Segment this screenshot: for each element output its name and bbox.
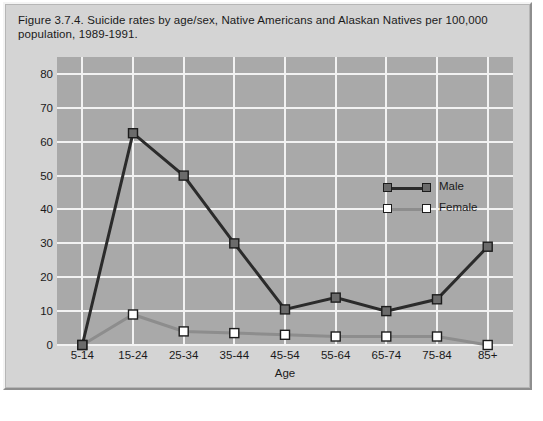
- y-axis-tick-label: 50: [7, 170, 53, 182]
- data-point-female: [281, 330, 290, 339]
- x-axis-tick-label: 35-44: [220, 349, 249, 361]
- y-axis-tick-label: 20: [7, 271, 53, 283]
- data-point-female: [179, 327, 188, 336]
- data-point-male: [230, 239, 239, 248]
- x-axis-tick-labels: 5-1415-2425-3435-4445-5455-6465-7475-848…: [57, 349, 513, 367]
- y-axis-tick-label: 60: [7, 136, 53, 148]
- x-axis-title: Age: [57, 367, 513, 379]
- data-point-male: [483, 242, 492, 251]
- y-axis-tick-label: 10: [7, 305, 53, 317]
- data-point-female: [230, 329, 239, 338]
- legend-label-male: Male: [439, 180, 464, 192]
- y-axis-tick-label: 30: [7, 237, 53, 249]
- data-point-male: [331, 293, 340, 302]
- data-point-female: [331, 332, 340, 341]
- data-point-male: [281, 305, 290, 314]
- legend-marker-female-left: [383, 204, 392, 213]
- figure-panel: Figure 3.7.4. Suicide rates by age/sex, …: [3, 2, 532, 390]
- x-axis-tick-label: 85+: [478, 349, 498, 361]
- legend-item-male: Male: [381, 179, 501, 197]
- y-axis-tick-labels: 01020304050607080: [5, 57, 53, 345]
- y-axis-tick-label: 80: [7, 68, 53, 80]
- data-point-female: [433, 332, 442, 341]
- x-axis-tick-label: 5-14: [71, 349, 94, 361]
- chart-legend: Male Female: [381, 179, 501, 223]
- x-axis-tick-label: 25-34: [169, 349, 198, 361]
- x-axis-tick-label: 15-24: [118, 349, 147, 361]
- data-point-male: [382, 307, 391, 316]
- chart-title: Figure 3.7.4. Suicide rates by age/sex, …: [18, 13, 513, 41]
- y-axis-tick-label: 40: [7, 203, 53, 215]
- data-point-male: [433, 295, 442, 304]
- data-point-female: [382, 332, 391, 341]
- legend-swatch-male: [381, 179, 433, 197]
- legend-marker-male-left: [383, 183, 392, 192]
- y-axis-tick-label: 70: [7, 102, 53, 114]
- legend-marker-male-right: [422, 183, 431, 192]
- y-axis-tick-label: 0: [7, 339, 53, 351]
- data-point-female: [129, 310, 138, 319]
- plot-area: Male Female: [57, 57, 513, 345]
- x-axis-tick-label: 65-74: [372, 349, 401, 361]
- x-axis-tick-label: 75-84: [422, 349, 451, 361]
- x-axis-tick-label: 55-64: [321, 349, 350, 361]
- data-point-male: [179, 171, 188, 180]
- data-point-male: [129, 129, 138, 138]
- legend-label-female: Female: [439, 201, 477, 213]
- legend-marker-female-right: [422, 204, 431, 213]
- legend-item-female: Female: [381, 200, 501, 218]
- x-axis-tick-label: 45-54: [270, 349, 299, 361]
- legend-swatch-female: [381, 200, 433, 218]
